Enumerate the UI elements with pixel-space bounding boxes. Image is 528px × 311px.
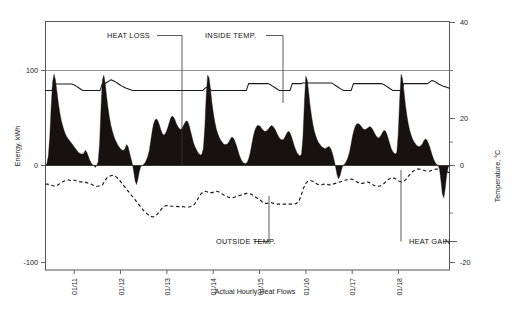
leader-inside-temp <box>266 36 283 104</box>
y-ticklabel-neg100: -100 <box>24 258 38 267</box>
y2-ticklabel-0: 0 <box>460 161 464 170</box>
x-ticklabel-01-11: 01/11 <box>71 278 78 295</box>
y-axis-label: Energy, kWh <box>13 126 22 167</box>
y-axis-left: 100 0 -100 Energy, kWh <box>13 66 46 267</box>
series-inside-temp-line <box>46 80 450 91</box>
y2-ticklabel-neg20: -20 <box>460 258 470 267</box>
y-axis-right: 40 20 0 -20 Temperature, °C <box>450 18 503 267</box>
x-ticklabel-01-16: 01/16 <box>303 278 310 296</box>
annotation-inside-temp: INSIDE TEMP. <box>205 31 256 40</box>
y-ticklabel-100: 100 <box>26 66 38 75</box>
annotation-heat-loss: HEAT LOSS <box>107 31 150 40</box>
x-ticklabel-01-13: 01/13 <box>164 278 171 296</box>
chart-figure: 100 0 -100 Energy, kWh 40 20 0 -20 Tempe… <box>0 0 528 311</box>
x-ticklabel-01-17: 01/17 <box>349 278 356 296</box>
series-outside-temp-line <box>46 169 450 217</box>
series-group <box>46 74 450 217</box>
y2-axis-label: Temperature, °C <box>493 150 502 202</box>
annotation-heat-gain: HEAT GAIN <box>409 237 450 246</box>
x-ticklabel-01-18: 01/18 <box>396 278 403 296</box>
y2-ticklabel-20: 20 <box>460 114 468 123</box>
y2-ticklabel-40: 40 <box>460 18 468 27</box>
x-ticklabel-01-12: 01/12 <box>118 278 125 296</box>
annotation-outside-temp: OUTSIDE TEMP. <box>216 237 276 246</box>
chart-caption: Actual Hourly Heat Flows <box>215 287 296 296</box>
chart-svg: 100 0 -100 Energy, kWh 40 20 0 -20 Tempe… <box>0 0 528 311</box>
y-ticklabel-0: 0 <box>34 161 38 170</box>
